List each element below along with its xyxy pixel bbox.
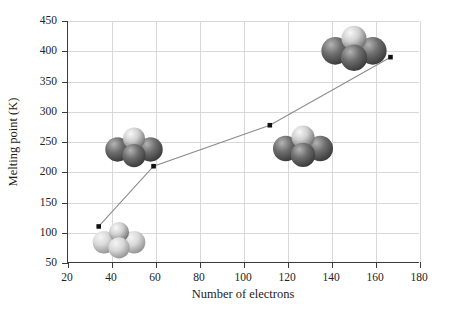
y-axis-tick-label: 100 bbox=[40, 227, 57, 239]
x-axis-tick bbox=[420, 262, 421, 268]
data-point-marker bbox=[388, 55, 393, 60]
x-axis-tick bbox=[288, 262, 289, 268]
x-axis-tick-label: 180 bbox=[399, 272, 439, 284]
x-axis-tick bbox=[376, 262, 377, 268]
melting-point-vs-electrons-chart: Melting point (K) Number of electrons 50… bbox=[0, 0, 449, 310]
x-axis-tick-label: 20 bbox=[47, 272, 87, 284]
x-axis-tick bbox=[68, 262, 69, 268]
series-polyline bbox=[99, 57, 391, 226]
x-axis-tick bbox=[332, 262, 333, 268]
y-axis-title: Melting point (K) bbox=[6, 98, 21, 187]
y-axis-tick-label: 300 bbox=[40, 106, 57, 118]
x-axis-tick-label: 160 bbox=[355, 272, 395, 284]
y-axis-tick-label: 450 bbox=[40, 15, 57, 27]
x-axis-tick bbox=[156, 262, 157, 268]
x-axis-title: Number of electrons bbox=[67, 287, 419, 302]
y-axis-tick-label: 350 bbox=[40, 76, 57, 88]
y-axis-tick-label: 50 bbox=[46, 257, 58, 269]
x-axis-tick-label: 140 bbox=[311, 272, 351, 284]
x-axis-tick-label: 40 bbox=[91, 272, 131, 284]
plot-area bbox=[67, 21, 419, 263]
y-axis-tick-label: 200 bbox=[40, 166, 57, 178]
x-axis-tick bbox=[200, 262, 201, 268]
gridline-vertical bbox=[420, 21, 421, 262]
data-point-marker bbox=[268, 123, 273, 128]
x-axis-tick bbox=[112, 262, 113, 268]
y-axis-tick-label: 150 bbox=[40, 197, 57, 209]
x-axis-tick-label: 100 bbox=[223, 272, 263, 284]
x-axis-tick-label: 120 bbox=[267, 272, 307, 284]
x-axis-tick-label: 60 bbox=[135, 272, 175, 284]
x-axis-tick-label: 80 bbox=[179, 272, 219, 284]
y-axis-tick-label: 250 bbox=[40, 136, 57, 148]
data-point-marker bbox=[151, 164, 156, 169]
x-axis-tick bbox=[244, 262, 245, 268]
data-point-marker bbox=[96, 224, 101, 229]
series-line bbox=[68, 21, 419, 262]
y-axis-tick-label: 400 bbox=[40, 45, 57, 57]
